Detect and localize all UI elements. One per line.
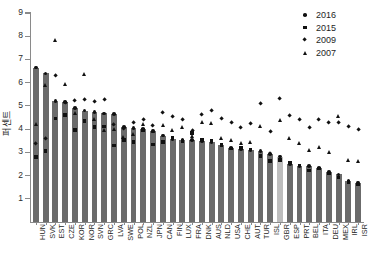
- x-axis-tick-label-gbr: GBR: [283, 224, 290, 240]
- datapoint-2015-nor: [83, 119, 87, 123]
- x-axis-tick: [75, 222, 76, 225]
- datapoint-2007-esp: [287, 136, 291, 140]
- datapoint-2009-aut: [248, 121, 253, 126]
- x-axis-tick: [124, 222, 125, 225]
- legend-label-2009: 2009: [316, 34, 336, 46]
- datapoint-2015-gbr: [278, 158, 282, 162]
- datapoint-2007-pol: [131, 132, 135, 136]
- legend-item-2009[interactable]: 2009: [303, 34, 365, 47]
- datapoint-2007-dnk: [200, 120, 204, 124]
- x-axis-tick: [85, 222, 86, 225]
- datapoint-2009-jpn: [151, 123, 156, 128]
- x-axis-tick-label-lva: LVA: [117, 224, 124, 237]
- x-axis-tick-label-grc: GRC: [107, 224, 114, 240]
- datapoint-2015-hun: [34, 155, 38, 159]
- y-axis-tick-label: 5: [9, 101, 23, 110]
- x-axis-tick-label-jpn: JPN: [156, 224, 163, 238]
- datapoint-2007-bel: [307, 148, 311, 152]
- legend-item-2007[interactable]: 2007: [303, 47, 365, 60]
- datapoint-2009-hun: [34, 141, 39, 146]
- datapoint-2015-deu: [327, 172, 331, 176]
- datapoint-2009-deu: [327, 121, 332, 126]
- datapoint-2016-can: [161, 134, 165, 138]
- legend-marker-circle-icon: [303, 13, 307, 17]
- datapoint-2009-cze: [63, 100, 68, 105]
- datapoint-2007-prt: [297, 141, 301, 145]
- datapoint-2007-jpn: [151, 129, 155, 133]
- x-axis-tick-label-esp: ESP: [293, 224, 300, 239]
- datapoint-2009-lux: [180, 118, 185, 123]
- x-axis-tick-label-lux: LUX: [185, 224, 192, 238]
- datapoint-2009-est: [53, 73, 58, 78]
- x-axis-tick-label-swe: SWE: [127, 224, 134, 241]
- datapoint-2009-aus: [209, 108, 214, 113]
- chart-legend: 2016201520092007: [303, 9, 365, 59]
- datapoint-2015-nld: [220, 143, 224, 147]
- datapoint-2007-irl: [346, 158, 350, 162]
- x-axis-tick-label-svn: SVN: [97, 224, 104, 239]
- x-axis-tick: [134, 222, 135, 225]
- x-axis-tick: [114, 222, 115, 225]
- x-axis-tick-label-usa: USA: [234, 224, 241, 239]
- datapoint-2007-cze: [63, 82, 67, 86]
- chart-container: 퍼센트 123456789 HUNSVKESTCZEKORNORSVNGRCLV…: [0, 0, 370, 270]
- datapoint-2015-lux: [181, 139, 185, 143]
- datapoint-2009-bel: [307, 125, 312, 130]
- datapoint-2007-kor: [73, 111, 77, 115]
- x-axis-tick-label-cze: CZE: [68, 224, 75, 239]
- x-axis-tick-label-aus: AUS: [215, 224, 222, 239]
- datapoint-2009-ita: [317, 118, 322, 123]
- y-axis-tick-label: 6: [9, 78, 23, 87]
- datapoint-2016-hun: [34, 66, 38, 70]
- legend-marker-triangle-icon: [303, 51, 307, 55]
- datapoint-2016-fra: [190, 138, 194, 142]
- datapoint-2015-irl: [347, 180, 351, 184]
- legend-item-2015[interactable]: 2015: [303, 22, 365, 35]
- datapoint-2015-che: [239, 146, 243, 150]
- datapoint-2015-can: [161, 140, 165, 144]
- datapoint-2009-che: [239, 125, 244, 130]
- x-axis-tick-label-nor: NOR: [88, 224, 95, 240]
- datapoint-2009-nzl: [141, 117, 146, 122]
- y-axis-tick-label: 1: [9, 194, 23, 203]
- datapoint-2007-isl: [268, 151, 272, 155]
- x-axis-tick: [290, 222, 291, 225]
- datapoint-2009-isr: [356, 127, 361, 132]
- x-axis-tick: [358, 222, 359, 225]
- datapoint-2009-grc: [102, 98, 107, 103]
- datapoint-2007-mex: [336, 114, 340, 118]
- x-axis-tick: [280, 222, 281, 225]
- datapoint-2009-svn: [92, 99, 97, 104]
- x-axis-tick: [329, 222, 330, 225]
- x-axis-tick: [173, 222, 174, 225]
- legend-marker-diamond-icon: [302, 37, 307, 42]
- x-axis-tick-label-mex: MEX: [342, 224, 349, 240]
- datapoint-2016-est: [54, 99, 58, 103]
- datapoint-2007-aut: [248, 140, 252, 144]
- datapoint-2015-isl: [268, 159, 272, 163]
- x-axis-tick-label-dnk: DNK: [205, 224, 212, 239]
- x-axis-tick-label-can: CAN: [166, 224, 173, 239]
- x-axis-tick-label-prt: PRT: [303, 224, 310, 239]
- legend-item-2016[interactable]: 2016: [303, 9, 365, 22]
- datapoint-2015-aut: [249, 148, 253, 152]
- datapoint-2009-esp: [287, 113, 292, 118]
- datapoint-2007-grc: [102, 128, 106, 132]
- datapoint-2015-jpn: [151, 143, 155, 147]
- x-axis-tick-label-isl: ISL: [273, 224, 280, 235]
- x-axis-tick-label-kor: KOR: [78, 224, 85, 240]
- datapoint-2009-isl: [268, 130, 273, 135]
- datapoint-2009-svk: [43, 136, 48, 141]
- datapoint-2007-fin: [170, 128, 174, 132]
- datapoint-2016-tur: [259, 149, 263, 153]
- datapoint-2015-svn: [93, 125, 97, 129]
- y-axis-tick-label: 8: [9, 31, 23, 40]
- x-axis-tick-labels: HUNSVKESTCZEKORNORSVNGRCLVASWEPOLNZLJPNC…: [31, 224, 363, 270]
- datapoint-2007-lva: [112, 127, 116, 131]
- datapoint-2015-ita: [317, 167, 321, 171]
- x-axis-tick-label-fra: FRA: [195, 224, 202, 239]
- x-axis-tick-label-irl: IRL: [351, 224, 358, 236]
- datapoint-2016-pol: [132, 126, 136, 130]
- datapoint-2007-nzl: [141, 122, 145, 126]
- datapoint-2015-isr: [356, 183, 360, 187]
